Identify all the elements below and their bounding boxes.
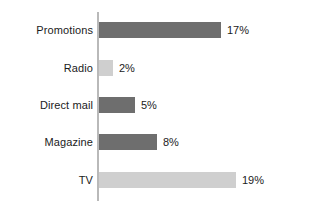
value-label-direct-mail: 5% [141,99,157,111]
bar-direct-mail [99,97,135,113]
category-label: Magazine [45,136,94,148]
bar-radio [99,60,113,76]
bar-chart: Promotions 17% Radio 2% Direct mail 5% M… [0,0,309,215]
bar-tv [99,172,236,188]
category-label: Direct mail [40,99,93,111]
bar-row: Radio 2% [0,60,309,76]
category-label: Promotions [36,24,93,36]
value-label-tv: 19% [242,174,264,186]
plot-area: Promotions 17% Radio 2% Direct mail 5% M… [0,0,309,215]
value-label-promotions: 17% [227,24,249,36]
value-label-magazine: 8% [163,136,179,148]
bar-row: Direct mail 5% [0,97,309,113]
category-label: TV [79,174,93,186]
bar-magazine [99,134,157,150]
bar-row: TV 19% [0,172,309,188]
bar-promotions [99,22,221,38]
bar-row: Promotions 17% [0,22,309,38]
bar-row: Magazine 8% [0,134,309,150]
value-label-radio: 2% [119,62,135,74]
category-label: Radio [64,62,93,74]
